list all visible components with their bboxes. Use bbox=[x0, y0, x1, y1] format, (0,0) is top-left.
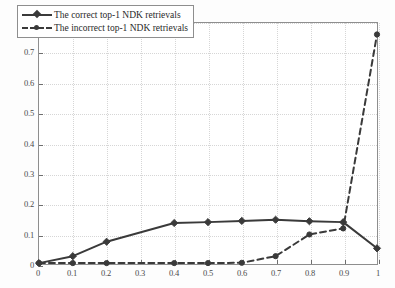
chart-screenshot: 00.10.20.30.40.50.60.70.80.91 00.10.20.3… bbox=[0, 0, 395, 288]
x-tick-label: 0.8 bbox=[305, 268, 315, 278]
data-point-marker bbox=[104, 261, 109, 266]
x-tick-label: 0.9 bbox=[339, 268, 349, 278]
y-tick-label: 0.4 bbox=[6, 139, 34, 149]
data-point-marker bbox=[171, 219, 178, 226]
data-point-marker bbox=[341, 226, 346, 231]
y-tick-label: 0.6 bbox=[6, 78, 34, 88]
legend-label-correct: The correct top-1 NDK retrievals bbox=[54, 9, 181, 21]
x-tick-label: 0.4 bbox=[169, 268, 179, 278]
y-tick-label: 0.7 bbox=[6, 47, 34, 57]
data-point-marker bbox=[273, 254, 278, 259]
data-point-marker bbox=[238, 217, 245, 224]
data-point-marker bbox=[69, 253, 76, 260]
data-point-marker bbox=[70, 261, 75, 266]
data-point-marker bbox=[103, 238, 110, 245]
x-tick bbox=[379, 260, 380, 264]
legend-item-incorrect: The incorrect top-1 NDK retrievals bbox=[21, 21, 188, 34]
x-tick-label: 0.1 bbox=[67, 268, 77, 278]
data-point-marker bbox=[272, 216, 279, 223]
data-point-marker bbox=[172, 261, 177, 266]
x-tick-label: 0.3 bbox=[135, 268, 145, 278]
x-tick-label: 0.7 bbox=[271, 268, 281, 278]
data-point-marker bbox=[205, 261, 210, 266]
y-tick-label: 0.3 bbox=[6, 169, 34, 179]
data-point-marker bbox=[239, 260, 244, 265]
data-point-marker bbox=[374, 32, 379, 37]
x-tick-label: 0.6 bbox=[237, 268, 247, 278]
data-point-marker bbox=[307, 232, 312, 237]
data-point-marker bbox=[204, 219, 211, 226]
y-tick-label: 0.1 bbox=[6, 230, 34, 240]
plot-area bbox=[38, 22, 378, 265]
series-line-incorrect bbox=[39, 34, 377, 263]
legend-item-correct: The correct top-1 NDK retrievals bbox=[21, 8, 188, 21]
y-tick-label: 0.2 bbox=[6, 199, 34, 209]
data-point-marker bbox=[306, 218, 313, 225]
x-tick-label: 1 bbox=[376, 268, 380, 278]
chart-legend: The correct top-1 NDK retrievals The inc… bbox=[17, 5, 194, 38]
gridline-vertical bbox=[379, 23, 380, 264]
series-layer bbox=[39, 23, 377, 264]
x-tick-label: 0.2 bbox=[101, 268, 111, 278]
data-point-marker bbox=[36, 261, 41, 266]
y-tick-label: 0.5 bbox=[6, 108, 34, 118]
legend-swatch-dashed-dot bbox=[21, 22, 53, 34]
x-tick-label: 0 bbox=[36, 268, 40, 278]
legend-swatch-solid-diamond bbox=[21, 9, 53, 21]
x-tick-label: 0.5 bbox=[203, 268, 213, 278]
legend-label-incorrect: The incorrect top-1 NDK retrievals bbox=[54, 22, 188, 34]
y-tick-label: 0 bbox=[6, 260, 34, 270]
